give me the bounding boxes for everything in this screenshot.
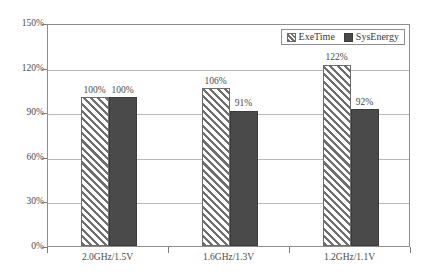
bar-wrap: 92% [351,109,379,246]
x-axis-category-label: 1.6GHz/1.3V [203,253,254,263]
y-axis-tick-label: 60% [2,153,44,163]
legend-label-exetime: ExeTime [299,32,335,42]
bar-wrap: 91% [230,111,258,246]
plot-area: 100%100%106%91%122%92% ExeTime SysEnergy [47,24,410,247]
y-axis-tickmark [42,69,47,70]
y-axis-tick-label: 120% [2,64,44,74]
chart-legend: ExeTime SysEnergy [281,29,405,45]
bar-exetime [202,88,230,246]
y-axis-tick-label: 0% [2,242,44,252]
legend-swatch-exetime-icon [287,33,296,42]
bar-chart: 0%30%60%90%120%150% 100%100%106%91%122%9… [0,0,424,276]
bar-group: 100%100% [48,23,169,246]
legend-label-sysenergy: SysEnergy [356,32,399,42]
y-axis-tickmark [42,202,47,203]
bar-wrap: 122% [323,65,351,246]
x-axis-tickmark [168,247,169,253]
bar-wrap: 100% [109,97,137,246]
y-axis-tick-label: 90% [2,108,44,118]
x-axis-tickmark [410,247,411,253]
legend-item-exetime: ExeTime [287,32,335,42]
bar-value-label: 91% [235,99,252,109]
y-axis-tickmark [42,24,47,25]
bar-value-label: 122% [325,53,347,63]
y-axis-tickmark [42,158,47,159]
bar-value-label: 92% [356,98,373,108]
legend-item-sysenergy: SysEnergy [344,32,399,42]
bar-exetime [81,97,109,246]
legend-swatch-sysenergy-icon [344,33,353,42]
bar-sysenergy [109,97,137,246]
bar-sysenergy [351,109,379,246]
bar-value-label: 100% [83,86,105,96]
y-axis-tickmark [42,113,47,114]
bar-value-label: 106% [204,77,226,87]
y-axis-tick-label: 30% [2,198,44,208]
bar-exetime [323,65,351,246]
bar-sysenergy [230,111,258,246]
bar-group: 122%92% [290,23,411,246]
bar-wrap: 106% [202,88,230,246]
bar-group: 106%91% [169,23,290,246]
x-axis-tickmark [47,247,48,253]
bar-wrap: 100% [81,97,109,246]
y-axis-tick-label: 150% [2,19,44,29]
y-axis: 0%30%60%90%120%150% [0,0,44,276]
x-axis-tickmark [289,247,290,253]
x-axis-category-label: 1.2GHz/1.1V [324,253,375,263]
bar-value-label: 100% [111,86,133,96]
x-axis-category-label: 2.0GHz/1.5V [82,253,133,263]
